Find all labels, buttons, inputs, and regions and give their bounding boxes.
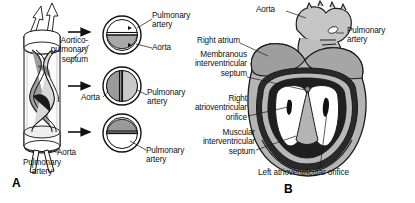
label-left-atrioventricular-orifice: Left atrioventricular orifice xyxy=(258,168,349,177)
truncus-arteriosus-cylinder xyxy=(24,3,60,173)
label-aorta-arch: Aorta xyxy=(256,5,275,14)
cross-section-middle xyxy=(103,67,147,105)
label-section2-pulmonary-artery: Pulmonary artery xyxy=(147,88,185,107)
cross-section-superior xyxy=(103,16,152,54)
label-section1-pulmonary-artery: Pulmonary artery xyxy=(152,11,190,30)
label-right-atrium: Right atrium xyxy=(197,36,240,45)
label-muscular-interventricular-septum: Muscular interventricular septum xyxy=(203,128,255,156)
label-right-atrioventricular-orifice: Right atrioventricular orifice xyxy=(195,94,247,122)
aortic-arch xyxy=(296,7,351,44)
label-pulmonary-artery-trunk: Pulmonary artery xyxy=(347,26,385,45)
membranous-interventricular-septum xyxy=(305,86,310,91)
label-section3-pulmonary-artery: Pulmonary artery xyxy=(146,146,184,165)
label-section2-aorta: Aorta xyxy=(81,93,100,102)
cross-section-inferior xyxy=(103,114,146,152)
label-aorticopulmonary-septum: Aortico- pulmonary septum xyxy=(51,36,88,64)
label-aorta-outlet: Aorta xyxy=(57,148,76,157)
label-pulmonary-artery-outlet: Pulmonary artery xyxy=(23,158,61,177)
label-membranous-interventricular-septum: Membranous interventricular septum xyxy=(195,50,247,78)
panel-label-a: A xyxy=(12,176,21,190)
label-section1-aorta: Aorta xyxy=(152,43,171,52)
blood-flow-arrow-icon xyxy=(30,3,58,34)
panel-label-b: B xyxy=(284,182,293,196)
